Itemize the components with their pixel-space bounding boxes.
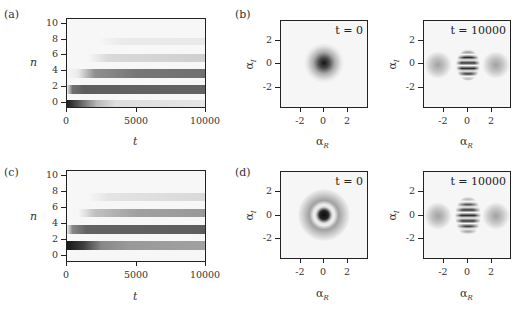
tick: [205, 107, 206, 112]
tick: [418, 63, 423, 64]
inset-time-label: t = 0: [335, 24, 363, 37]
tick-label: -2: [395, 82, 415, 92]
tick: [347, 107, 348, 112]
tick: [66, 107, 67, 112]
tick: [300, 107, 301, 112]
tick: [61, 223, 66, 224]
tick: [275, 215, 280, 216]
x-axis-label-c: t: [133, 290, 137, 303]
x-axis-label-alpha-R: αR: [316, 287, 329, 302]
tick-label: 0: [38, 97, 58, 107]
tick-label: 4: [38, 218, 58, 228]
interference-fringes: [456, 49, 480, 81]
tick: [205, 261, 206, 266]
tick: [491, 107, 492, 112]
tick: [136, 261, 137, 266]
stripe-n3: [67, 225, 205, 234]
panel-label-b: (b): [235, 8, 251, 21]
x-axis-label-a: t: [133, 135, 137, 148]
tick: [275, 63, 280, 64]
tick-label: 2: [329, 116, 365, 126]
tick: [66, 261, 67, 266]
tick-label: 0: [48, 116, 84, 126]
tick-label: 2: [252, 35, 272, 45]
inset-time-label: t = 0: [335, 175, 363, 188]
left-lobe: [424, 202, 452, 230]
gaussian-blob: [304, 43, 344, 83]
wigner-d-t0: t = 0: [280, 171, 368, 259]
wigner-b-t10000: t = 10000: [423, 20, 511, 108]
tick: [418, 87, 423, 88]
tick-label: 5000: [118, 116, 154, 126]
tick: [418, 215, 423, 216]
tick-label: 10000: [187, 270, 223, 280]
tick: [61, 54, 66, 55]
tick: [323, 258, 324, 263]
tick: [418, 238, 423, 239]
panel-label-d: (d): [235, 166, 251, 179]
tick-label: 0: [48, 270, 84, 280]
x-axis-label-alpha-R: αR: [460, 287, 473, 302]
tick: [61, 70, 66, 71]
tick: [491, 258, 492, 263]
stripe-n5: [67, 209, 205, 217]
tick: [275, 87, 280, 88]
tick: [418, 40, 423, 41]
tick: [443, 258, 444, 263]
tick: [61, 207, 66, 208]
tick: [61, 175, 66, 176]
tick-label: 6: [38, 202, 58, 212]
tick: [61, 255, 66, 256]
stripe-n1: [67, 241, 205, 250]
tick-label: 2: [38, 81, 58, 91]
tick-label: 5000: [118, 270, 154, 280]
wigner-d-t10000: t = 10000: [423, 171, 511, 259]
tick: [61, 239, 66, 240]
tick-label: 8: [38, 186, 58, 196]
y-axis-label-a: n: [30, 56, 37, 69]
tick-label: 10: [38, 18, 58, 28]
y-axis-label-alpha-I: αI: [243, 210, 258, 220]
tick: [443, 107, 444, 112]
y-axis-label-c: n: [30, 210, 37, 223]
tick-label: -2: [252, 233, 272, 243]
tick: [275, 238, 280, 239]
panel-label-a: (a): [4, 8, 19, 21]
stripe-n7: [67, 193, 205, 201]
tick: [136, 107, 137, 112]
tick: [347, 258, 348, 263]
interference-fringes: [455, 196, 481, 236]
tick-label: -2: [395, 233, 415, 243]
tick: [418, 191, 423, 192]
inset-time-label: t = 10000: [450, 175, 506, 188]
tick: [467, 107, 468, 112]
tick-label: 2: [252, 186, 272, 196]
x-axis-label-alpha-R: αR: [316, 135, 329, 150]
tick-label: 2: [395, 35, 415, 45]
wigner-b-t0: t = 0: [280, 20, 368, 108]
left-lobe: [424, 51, 452, 79]
tick-label: 10000: [187, 116, 223, 126]
y-axis-label-alpha-I: αI: [243, 59, 258, 69]
heatmap-a: [66, 18, 206, 108]
tick-label: 2: [38, 234, 58, 244]
tick: [275, 40, 280, 41]
panel-label-c: (c): [4, 166, 19, 179]
stripe-n4: [67, 69, 205, 78]
tick-label: 6: [38, 49, 58, 59]
y-axis-label-alpha-I: αI: [386, 59, 401, 69]
heatmap-c: [66, 170, 206, 262]
fock-ring: [298, 189, 350, 241]
stripe-n8: [67, 38, 205, 45]
tick-label: 2: [329, 267, 365, 277]
stripe-n2: [67, 85, 205, 94]
tick-label: 8: [38, 34, 58, 44]
tick: [300, 258, 301, 263]
x-axis-label-alpha-R: αR: [460, 135, 473, 150]
tick-label: 0: [38, 250, 58, 260]
tick: [61, 191, 66, 192]
right-lobe: [482, 51, 510, 79]
tick: [61, 23, 66, 24]
inset-time-label: t = 10000: [450, 24, 506, 37]
tick-label: 2: [473, 267, 509, 277]
